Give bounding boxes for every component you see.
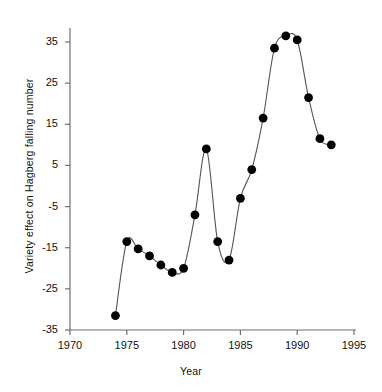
data-point (281, 31, 290, 40)
y-tick-label: -5 (32, 200, 58, 212)
x-tick-label: 1985 (220, 339, 260, 351)
data-point (270, 44, 279, 53)
y-tick-label: -25 (32, 282, 58, 294)
data-point-markers (111, 31, 336, 320)
data-point (168, 268, 177, 277)
y-axis-ticks (65, 42, 70, 330)
data-line (115, 34, 331, 316)
data-point (259, 114, 268, 123)
data-point (156, 261, 165, 270)
data-point (134, 245, 143, 254)
data-point (236, 194, 245, 203)
y-tick-label: -35 (32, 323, 58, 335)
y-tick-label: 15 (32, 117, 58, 129)
x-tick-label: 1990 (277, 339, 317, 351)
y-tick-label: 35 (32, 35, 58, 47)
data-point (145, 252, 154, 261)
data-point (111, 311, 120, 320)
data-point (293, 36, 302, 45)
x-tick-label: 1975 (107, 339, 147, 351)
data-point (316, 134, 325, 143)
data-point (327, 140, 336, 149)
y-tick-label: 5 (32, 158, 58, 170)
data-point (304, 93, 313, 102)
x-axis-label: Year (0, 365, 382, 377)
x-tick-label: 1995 (334, 339, 374, 351)
data-point (225, 256, 234, 265)
data-point (191, 210, 200, 219)
x-tick-label: 1980 (164, 339, 204, 351)
x-tick-label: 1970 (50, 339, 90, 351)
data-point (202, 145, 211, 154)
data-point (247, 165, 256, 174)
chart-figure: Variety effect on Hagberg falling number… (0, 0, 382, 392)
data-point (213, 237, 222, 246)
data-point (179, 264, 188, 273)
data-point (122, 237, 131, 246)
y-tick-label: 25 (32, 76, 58, 88)
x-axis-ticks (70, 330, 354, 335)
y-tick-label: -15 (32, 241, 58, 253)
